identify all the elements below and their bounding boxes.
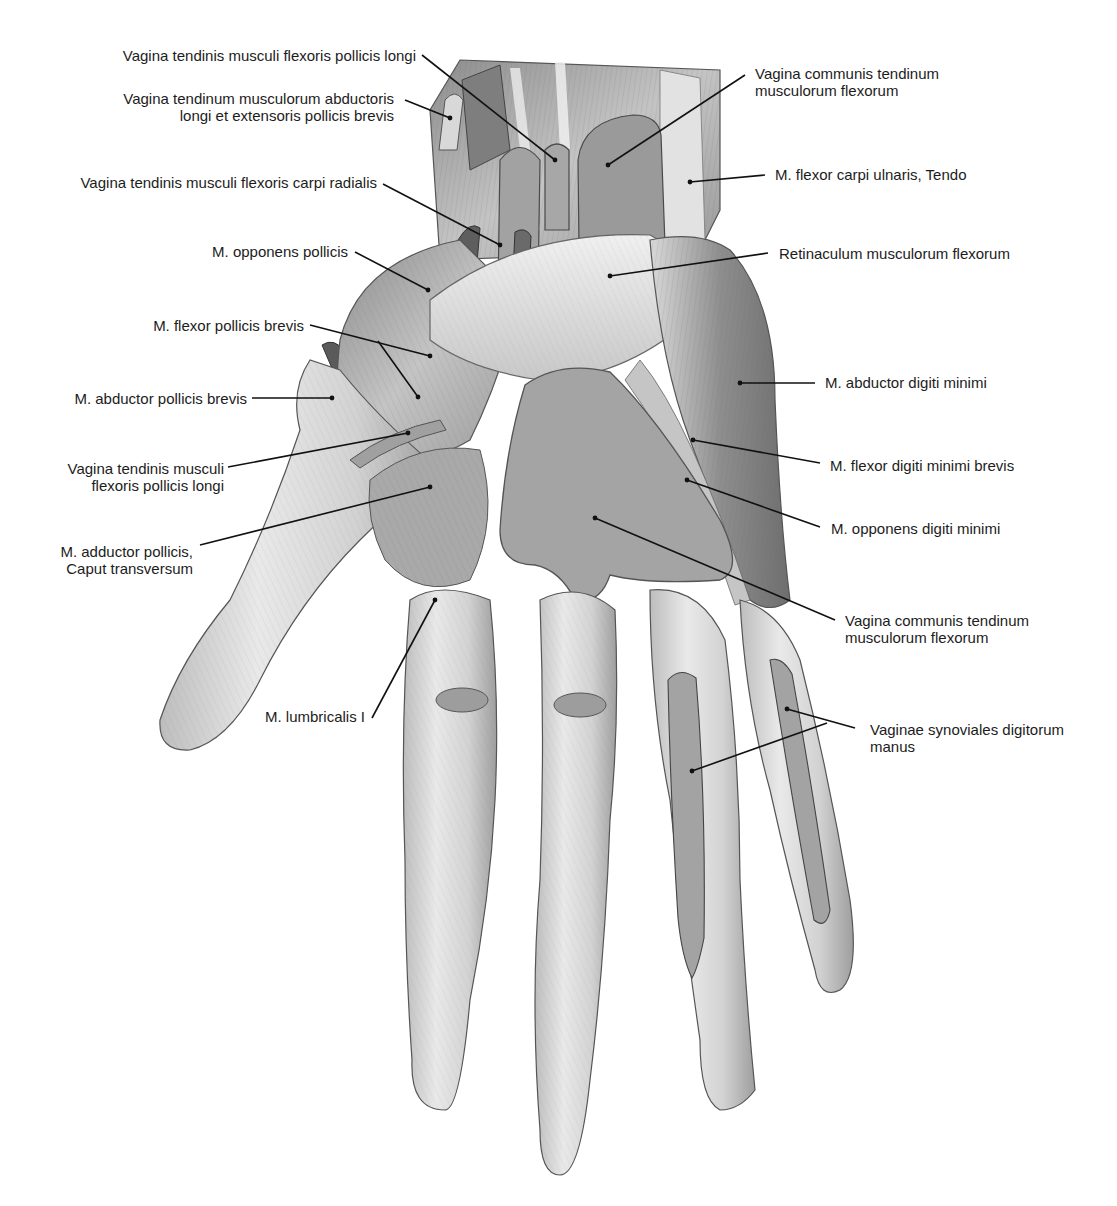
label-m-abductor-digiti-minimi: M. abductor digiti minimi: [825, 374, 987, 391]
label-vagina-flexor-carpi-radialis: Vagina tendinis musculi flexoris carpi r…: [80, 174, 377, 191]
label-m-adductor-pollicis: M. adductor pollicis, Caput transversum: [60, 543, 193, 577]
label-retinaculum: Retinaculum musculorum flexorum: [779, 245, 1010, 262]
label-m-flexor-pollicis-brevis: M. flexor pollicis brevis: [153, 317, 304, 334]
label-m-abductor-pollicis-brevis: M. abductor pollicis brevis: [74, 390, 247, 407]
fingers: [403, 590, 853, 1175]
label-vaginae-synoviales: Vaginae synoviales digitorum manus: [870, 721, 1064, 755]
label-vagina-abductor-extensor-pollicis: Vagina tendinum musculorum abductoris lo…: [123, 90, 394, 124]
sheath-common-flexor-top: [578, 115, 665, 245]
sheath-flexor-pollicis-longus: [545, 144, 569, 230]
label-vagina-flexor-pollicis-longi-bottom: Vagina tendinis musculi flexoris pollici…: [68, 460, 224, 494]
label-m-opponens-digiti-minimi: M. opponens digiti minimi: [831, 520, 1000, 537]
label-m-opponens-pollicis: M. opponens pollicis: [212, 243, 348, 260]
label-m-flexor-carpi-ulnaris: M. flexor carpi ulnaris, Tendo: [775, 166, 966, 183]
label-vagina-flexor-pollicis-longi-top: Vagina tendinis musculi flexoris pollici…: [123, 47, 416, 64]
label-vagina-communis-bottom: Vagina communis tendinum musculorum flex…: [845, 612, 1029, 646]
label-m-flexor-digiti-minimi-brevis: M. flexor digiti minimi brevis: [830, 457, 1014, 474]
label-vagina-communis-top: Vagina communis tendinum musculorum flex…: [755, 65, 939, 99]
label-m-lumbricalis-i: M. lumbricalis I: [265, 708, 365, 725]
